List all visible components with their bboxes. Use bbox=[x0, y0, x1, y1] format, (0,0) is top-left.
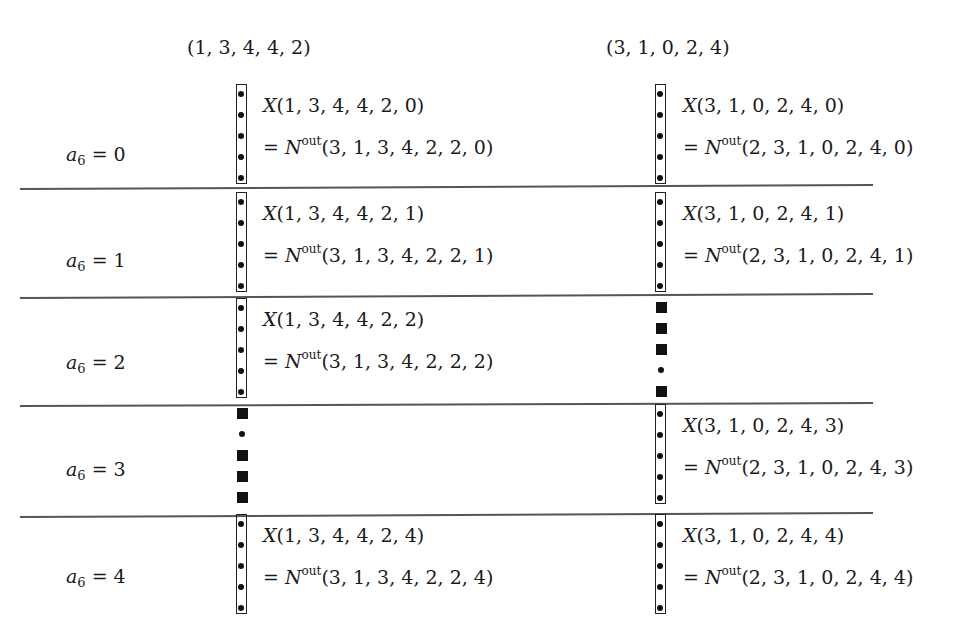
dot-icon bbox=[238, 563, 244, 569]
x-expression: X(1, 3, 4, 4, 2, 4) bbox=[263, 524, 424, 546]
row-divider bbox=[20, 512, 873, 517]
row-label-value: = 1 bbox=[86, 249, 126, 271]
n-out-expression: = Nout(2, 3, 1, 0, 2, 4, 0) bbox=[683, 134, 913, 158]
row-label: a6 = 0 bbox=[66, 143, 126, 168]
dot-icon bbox=[238, 305, 244, 311]
dot-icon bbox=[657, 584, 663, 590]
dot-icon bbox=[657, 199, 663, 205]
n-out-expression: = Nout(2, 3, 1, 0, 2, 4, 3) bbox=[683, 454, 913, 478]
dot-icon bbox=[657, 563, 663, 569]
dot-icon bbox=[238, 347, 244, 353]
x-expression: X(1, 3, 4, 4, 2, 0) bbox=[263, 94, 424, 116]
row-label-var: a bbox=[66, 249, 77, 271]
dot-icon bbox=[238, 605, 244, 611]
x-expression: X(3, 1, 0, 2, 4, 1) bbox=[683, 202, 844, 224]
dot-icon bbox=[238, 262, 244, 268]
square-icon bbox=[237, 492, 248, 503]
row-divider bbox=[20, 402, 873, 406]
row-label-var: a bbox=[66, 565, 77, 587]
n-out-expression: = Nout(3, 1, 3, 4, 2, 2, 1) bbox=[263, 242, 493, 266]
dot-icon bbox=[238, 521, 244, 527]
dot-icon bbox=[657, 262, 663, 268]
dot-icon bbox=[657, 241, 663, 247]
dot-icon bbox=[657, 453, 663, 459]
square-icon bbox=[656, 386, 667, 397]
dot-icon bbox=[238, 542, 244, 548]
row-label-sub: 6 bbox=[77, 361, 85, 376]
dot-icon bbox=[238, 154, 244, 160]
n-out-expression: = Nout(3, 1, 3, 4, 2, 2, 0) bbox=[263, 134, 493, 158]
dot-icon bbox=[658, 367, 664, 373]
dot-column-box bbox=[236, 192, 247, 292]
dot-icon bbox=[238, 241, 244, 247]
dot-icon bbox=[238, 112, 244, 118]
dot-icon bbox=[657, 91, 663, 97]
n-out-expression: = Nout(2, 3, 1, 0, 2, 4, 4) bbox=[683, 564, 913, 588]
row-divider bbox=[20, 293, 873, 298]
row-label-sub: 6 bbox=[77, 575, 85, 590]
column-header-right: (3, 1, 0, 2, 4) bbox=[606, 36, 730, 58]
dot-icon bbox=[657, 133, 663, 139]
row-label-value: = 0 bbox=[86, 143, 126, 165]
dot-column-box bbox=[236, 298, 247, 398]
dot-icon bbox=[238, 91, 244, 97]
dot-column-box bbox=[655, 192, 666, 292]
dot-icon bbox=[657, 411, 663, 417]
dot-column-box bbox=[236, 514, 247, 614]
dot-icon bbox=[657, 542, 663, 548]
row-label-value: = 2 bbox=[86, 351, 126, 373]
dot-icon bbox=[657, 495, 663, 501]
row-label: a6 = 4 bbox=[66, 565, 126, 590]
dot-icon bbox=[238, 220, 244, 226]
n-out-expression: = Nout(3, 1, 3, 4, 2, 2, 4) bbox=[263, 564, 493, 588]
dot-icon bbox=[238, 133, 244, 139]
n-out-expression: = Nout(3, 1, 3, 4, 2, 2, 2) bbox=[263, 348, 493, 372]
square-icon bbox=[237, 450, 248, 461]
dot-icon bbox=[657, 432, 663, 438]
dot-column-box bbox=[655, 404, 666, 504]
dot-icon bbox=[238, 199, 244, 205]
x-expression: X(3, 1, 0, 2, 4, 0) bbox=[683, 94, 844, 116]
dot-icon bbox=[657, 112, 663, 118]
row-label-sub: 6 bbox=[77, 153, 85, 168]
dot-icon bbox=[657, 220, 663, 226]
dot-icon bbox=[657, 605, 663, 611]
dot-icon bbox=[238, 368, 244, 374]
dot-icon bbox=[238, 175, 244, 181]
row-label-var: a bbox=[66, 458, 77, 480]
dot-icon bbox=[238, 389, 244, 395]
square-icon bbox=[237, 471, 248, 482]
row-label: a6 = 3 bbox=[66, 458, 126, 483]
dot-icon bbox=[238, 283, 244, 289]
row-label-var: a bbox=[66, 143, 77, 165]
row-label-sub: 6 bbox=[77, 468, 85, 483]
dot-icon bbox=[657, 175, 663, 181]
square-icon bbox=[656, 344, 667, 355]
row-label: a6 = 1 bbox=[66, 249, 126, 274]
row-label: a6 = 2 bbox=[66, 351, 126, 376]
square-icon bbox=[237, 408, 248, 419]
row-label-sub: 6 bbox=[77, 259, 85, 274]
dot-icon bbox=[657, 474, 663, 480]
row-label-value: = 4 bbox=[86, 565, 126, 587]
row-label-value: = 3 bbox=[86, 458, 126, 480]
dot-icon bbox=[657, 283, 663, 289]
dot-icon bbox=[657, 154, 663, 160]
row-divider bbox=[20, 184, 873, 189]
x-expression: X(1, 3, 4, 4, 2, 2) bbox=[263, 308, 424, 330]
x-expression: X(1, 3, 4, 4, 2, 1) bbox=[263, 202, 424, 224]
row-label-var: a bbox=[66, 351, 77, 373]
square-icon bbox=[656, 323, 667, 334]
x-expression: X(3, 1, 0, 2, 4, 4) bbox=[683, 524, 844, 546]
dot-icon bbox=[239, 431, 245, 437]
dot-icon bbox=[657, 521, 663, 527]
dot-icon bbox=[238, 584, 244, 590]
dot-icon bbox=[238, 326, 244, 332]
dot-column-box bbox=[236, 84, 247, 184]
column-header-left: (1, 3, 4, 4, 2) bbox=[187, 36, 311, 58]
dot-column-box bbox=[655, 84, 666, 184]
square-icon bbox=[656, 302, 667, 313]
n-out-expression: = Nout(2, 3, 1, 0, 2, 4, 1) bbox=[683, 242, 913, 266]
dot-column-box bbox=[655, 514, 666, 614]
x-expression: X(3, 1, 0, 2, 4, 3) bbox=[683, 414, 844, 436]
